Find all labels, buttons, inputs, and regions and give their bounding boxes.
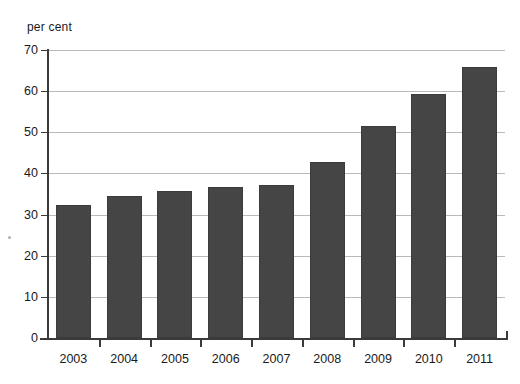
y-tick-label: 30 <box>12 208 38 222</box>
x-tick-mark <box>150 339 152 347</box>
bar-2007 <box>259 185 294 338</box>
x-tick-mark <box>403 339 405 347</box>
x-tick-label-2008: 2008 <box>313 352 341 366</box>
x-tick-label-2005: 2005 <box>161 352 189 366</box>
y-tick-mark <box>41 338 49 339</box>
x-tick-label-2009: 2009 <box>364 352 392 366</box>
y-tick-mark <box>41 215 49 216</box>
gridline <box>48 50 505 51</box>
bar-2006 <box>208 187 243 338</box>
bar-2009 <box>361 126 396 338</box>
y-axis-tick-labels: 010203040506070 <box>8 0 38 384</box>
plot-area <box>48 50 505 338</box>
y-tick-mark <box>41 173 49 174</box>
x-tick-mark <box>200 339 202 347</box>
bar-2005 <box>157 191 192 338</box>
x-tick-label-2011: 2011 <box>466 352 493 366</box>
x-tick-mark <box>251 339 253 347</box>
bar-chart: per cent 010203040506070 200320042005200… <box>0 0 520 384</box>
x-tick-label-2010: 2010 <box>415 352 443 366</box>
y-tick-label: 40 <box>12 166 38 180</box>
y-tick-label: 60 <box>12 84 38 98</box>
bar-2004 <box>107 196 142 338</box>
x-tick-label-2003: 2003 <box>59 352 87 366</box>
y-tick-label: 0 <box>12 331 38 345</box>
x-tick-label-2006: 2006 <box>212 352 240 366</box>
x-tick-mark <box>454 339 456 347</box>
y-tick-mark <box>41 132 49 133</box>
gridline <box>48 91 505 92</box>
x-tick-label-2007: 2007 <box>263 352 291 366</box>
bar-2008 <box>310 162 345 338</box>
y-tick-label: 70 <box>12 43 38 57</box>
scan-artifact-speck <box>8 236 11 239</box>
x-axis-line <box>40 338 508 340</box>
y-tick-mark <box>41 256 49 257</box>
y-tick-mark <box>41 50 49 51</box>
x-tick-mark <box>353 339 355 347</box>
x-tick-mark <box>99 339 101 347</box>
y-tick-mark <box>41 91 49 92</box>
bar-2003 <box>56 205 91 338</box>
bar-2011 <box>462 67 497 338</box>
bar-2010 <box>411 94 446 338</box>
x-tick-label-2004: 2004 <box>110 352 138 366</box>
x-tick-mark <box>302 339 304 347</box>
y-tick-label: 50 <box>12 125 38 139</box>
y-tick-label: 10 <box>12 290 38 304</box>
x-axis-end-cap <box>506 331 508 340</box>
y-tick-label: 20 <box>12 249 38 263</box>
y-tick-mark <box>41 297 49 298</box>
